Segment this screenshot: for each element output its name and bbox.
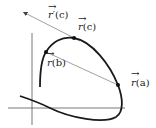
point-r-c — [72, 36, 76, 40]
svg-text:r(a): r(a) — [131, 77, 150, 88]
label-r-a: → r(a) — [131, 68, 150, 88]
svg-text:r(c): r(c) — [78, 21, 96, 32]
label-r-b: → r(b) — [46, 48, 66, 68]
svg-text:r(b): r(b) — [47, 57, 66, 68]
label-r-prime-c: → r′(c) — [48, 1, 69, 20]
point-r-a — [116, 83, 120, 87]
diagram-canvas: → r′(c) → r(c) → r(b) → r(a) — [0, 0, 156, 128]
label-r-c: → r(c) — [78, 13, 96, 32]
svg-text:r′(c): r′(c) — [48, 9, 69, 20]
